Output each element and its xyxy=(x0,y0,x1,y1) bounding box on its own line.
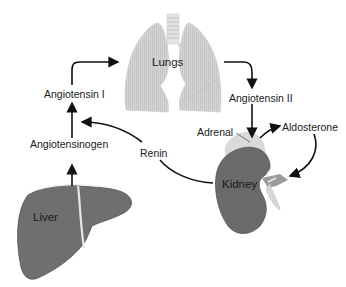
label-angiotensin-i: Angiotensin I xyxy=(44,88,105,100)
liver-illustration xyxy=(18,185,132,279)
label-aldosterone: Aldosterone xyxy=(282,121,338,133)
label-angiotensin-ii: Angiotensin II xyxy=(229,92,293,104)
label-kidney: Kidney xyxy=(222,178,257,190)
arrow-angiotensin-i-to-lungs xyxy=(72,62,118,85)
arrow-adrenal-to-aldosterone xyxy=(260,126,280,138)
label-liver: Liver xyxy=(33,211,58,223)
label-renin: Renin xyxy=(140,147,167,159)
arrow-aldosterone-to-kidney xyxy=(290,134,316,176)
label-angiotensinogen: Angiotensinogen xyxy=(30,138,108,150)
kidney-illustration xyxy=(216,147,289,233)
label-adrenal: Adrenal xyxy=(197,126,233,138)
raas-diagram: Lungs Liver Kidney Adrenal Angiotensinog… xyxy=(0,0,346,287)
label-lungs: Lungs xyxy=(152,56,183,68)
arrow-lungs-to-angiotensin-ii xyxy=(224,62,252,88)
arrow-kidney-to-renin xyxy=(160,160,213,183)
